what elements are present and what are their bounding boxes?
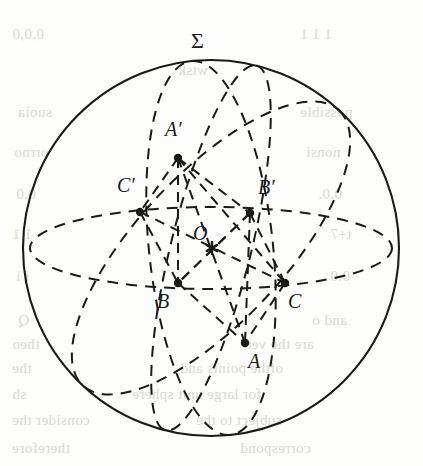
chord-Bprime-A xyxy=(245,213,250,343)
chord-Bprime-C xyxy=(250,213,285,283)
point-marker-A xyxy=(241,339,249,347)
chord-Cprime-B xyxy=(140,212,178,283)
point-label-C: C xyxy=(288,290,301,313)
chord-Aprime-Cprime xyxy=(140,158,178,212)
point-marker-B-prime xyxy=(246,209,254,217)
point-label-B-prime: B′ xyxy=(258,176,275,199)
point-marker-C-prime xyxy=(136,208,144,216)
point-label-C-prime: C′ xyxy=(117,174,135,197)
sphere-diagram xyxy=(0,0,423,466)
point-marker-A-prime xyxy=(174,154,182,162)
point-label-B: B xyxy=(157,290,169,313)
point-marker-B xyxy=(174,279,182,287)
point-label-A-prime: A′ xyxy=(165,118,182,141)
point-label-O: O xyxy=(193,222,207,245)
point-label-A: A xyxy=(248,350,260,373)
sphere-label-sigma: Σ xyxy=(191,28,204,54)
point-marker-C xyxy=(281,279,289,287)
